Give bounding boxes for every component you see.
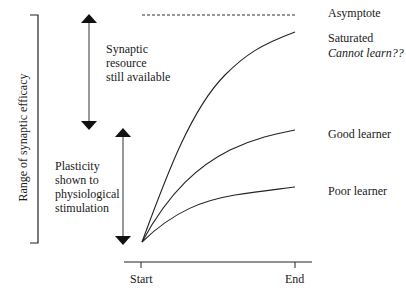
x-start-label: Start bbox=[130, 272, 153, 286]
lower-range-label-2: shown to bbox=[55, 173, 99, 187]
good-learner-label: Good learner bbox=[328, 127, 391, 141]
poor-learner-curve bbox=[142, 187, 295, 242]
y-axis-label: Range of synaptic efficacy bbox=[16, 63, 31, 213]
upper-range-label-3: still available bbox=[106, 70, 170, 84]
asymptote-label: Asymptote bbox=[328, 6, 381, 20]
lower-range-label-4: stimulation bbox=[55, 201, 109, 215]
lower-range-label-3: physiological bbox=[55, 187, 120, 201]
x-end-label: End bbox=[285, 272, 304, 286]
range-bracket bbox=[30, 15, 38, 243]
upper-range-label-1: Synaptic bbox=[106, 42, 148, 56]
poor-learner-label: Poor learner bbox=[328, 184, 387, 198]
lower-range-label-1: Plasticity bbox=[55, 159, 100, 173]
upper-range-label-2: resource bbox=[106, 56, 147, 70]
good-learner-curve bbox=[142, 130, 295, 242]
saturated-curve bbox=[142, 32, 295, 242]
upper-double-arrow-icon bbox=[81, 14, 97, 130]
cannot-learn-label: Cannot learn?? bbox=[328, 46, 404, 60]
saturated-label: Saturated bbox=[328, 31, 373, 45]
